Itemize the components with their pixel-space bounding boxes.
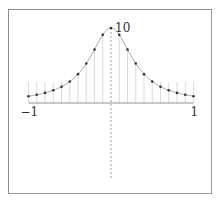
data-point <box>101 34 104 37</box>
data-point <box>176 92 179 95</box>
x-max-tick-label: 1 <box>191 105 199 119</box>
data-point <box>85 62 88 65</box>
runge-function-plot: −1 1 10 <box>0 0 223 208</box>
data-point <box>184 93 187 96</box>
data-point <box>77 73 80 76</box>
data-point <box>110 27 113 30</box>
peak-value-label: 10 <box>115 21 130 35</box>
data-point <box>151 80 154 83</box>
x-min-tick-label: −1 <box>21 105 39 119</box>
data-point <box>192 95 195 98</box>
data-point <box>68 80 71 83</box>
data-point <box>126 48 129 51</box>
data-point <box>159 85 162 88</box>
data-point <box>52 89 55 92</box>
data-point <box>27 95 30 98</box>
data-point <box>60 85 63 88</box>
data-point <box>93 48 96 51</box>
data-point <box>44 92 47 95</box>
data-point <box>143 73 146 76</box>
data-point <box>167 89 170 92</box>
data-point <box>35 93 38 96</box>
data-point <box>134 62 137 65</box>
